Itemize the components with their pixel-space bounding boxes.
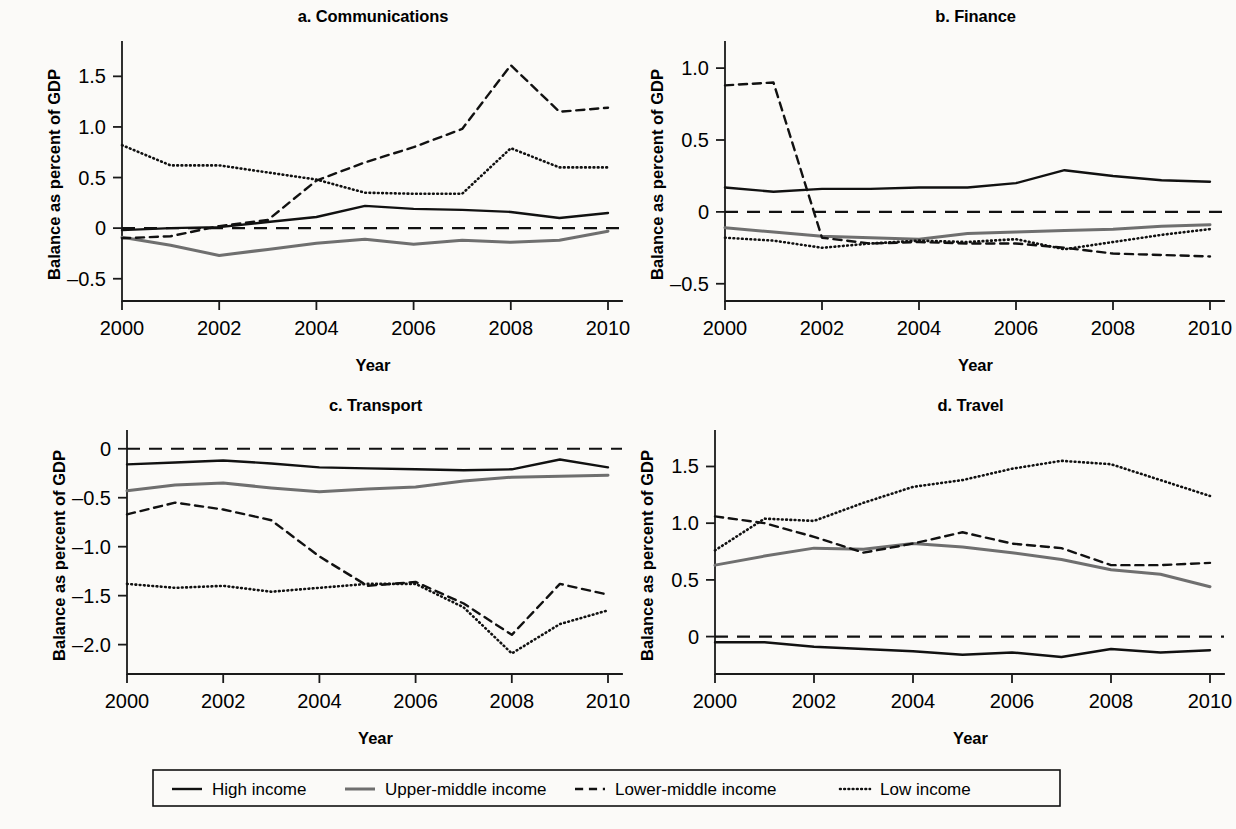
x-tick-label-c-1: 2002 (201, 690, 246, 712)
x-tick-label-d-4: 2008 (1089, 690, 1134, 712)
panel-c: c. Transport–2.0–1.5–1.0–0.5020002002200… (50, 396, 630, 747)
series-line-b-2 (725, 83, 1210, 257)
y-axis-title-b: Balance as percent of GDP (648, 69, 666, 280)
series-line-b-1 (725, 225, 1210, 239)
x-tick-label-b-4: 2008 (1091, 317, 1136, 339)
y-tick-label-c-4: 0 (100, 438, 111, 460)
series-line-c-0 (127, 460, 608, 471)
y-tick-label-d-2: 1.0 (671, 512, 699, 534)
x-axis-title-a: Year (356, 356, 391, 374)
y-axis-title-c: Balance as percent of GDP (50, 450, 68, 661)
y-tick-label-b-2: 0.5 (681, 129, 709, 151)
x-tick-label-a-0: 2000 (100, 317, 145, 339)
x-tick-label-b-3: 2006 (994, 317, 1039, 339)
y-tick-label-c-0: –2.0 (72, 634, 111, 656)
x-tick-label-c-3: 2006 (393, 690, 438, 712)
x-tick-label-d-5: 2010 (1188, 690, 1233, 712)
y-tick-label-d-3: 1.5 (671, 455, 699, 477)
y-axis-title-d: Balance as percent of GDP (638, 450, 656, 661)
x-tick-label-b-0: 2000 (703, 317, 748, 339)
series-line-c-1 (127, 475, 608, 492)
y-tick-label-b-1: 0 (698, 201, 709, 223)
x-axis-title-b: Year (958, 356, 993, 374)
y-tick-label-a-3: 1.0 (78, 116, 106, 138)
series-line-d-2 (715, 516, 1210, 565)
y-tick-label-a-2: 0.5 (78, 167, 106, 189)
x-tick-label-c-0: 2000 (105, 690, 150, 712)
series-line-d-0 (715, 642, 1210, 657)
y-tick-label-b-0: –0.5 (670, 273, 709, 295)
panel-b: b. Finance–0.500.51.02000200220042006200… (648, 7, 1232, 374)
legend-label-3: Low income (880, 780, 971, 799)
series-line-a-3 (122, 145, 608, 194)
x-tick-label-a-1: 2002 (197, 317, 242, 339)
x-tick-label-d-0: 2000 (693, 690, 738, 712)
y-tick-label-d-1: 0.5 (671, 569, 699, 591)
series-line-a-1 (122, 231, 608, 255)
x-tick-label-b-1: 2002 (800, 317, 845, 339)
figure-services-trade-balances: a. Communications–0.500.51.01.5200020022… (0, 0, 1236, 829)
x-tick-label-a-3: 2006 (391, 317, 436, 339)
y-tick-label-c-3: –0.5 (72, 487, 111, 509)
legend-label-0: High income (212, 780, 307, 799)
panel-a: a. Communications–0.500.51.01.5200020022… (45, 7, 630, 374)
series-line-d-3 (715, 461, 1210, 551)
series-line-c-2 (127, 503, 608, 635)
x-tick-label-d-3: 2006 (990, 690, 1035, 712)
y-tick-label-b-3: 1.0 (681, 57, 709, 79)
x-tick-label-a-4: 2008 (489, 317, 534, 339)
series-line-a-2 (122, 65, 608, 238)
panel-title-c: c. Transport (329, 396, 423, 414)
x-tick-label-c-2: 2004 (297, 690, 342, 712)
x-tick-label-c-5: 2010 (586, 690, 631, 712)
series-line-c-3 (127, 584, 608, 654)
y-tick-label-a-4: 1.5 (78, 65, 106, 87)
x-tick-label-b-2: 2004 (897, 317, 942, 339)
y-tick-label-c-2: –1.0 (72, 536, 111, 558)
x-axis-title-d: Year (953, 729, 988, 747)
y-tick-label-d-0: 0 (688, 626, 699, 648)
x-axis-title-c: Year (358, 729, 393, 747)
series-line-a-0 (122, 206, 608, 230)
series-line-b-0 (725, 170, 1210, 192)
x-tick-label-d-2: 2004 (891, 690, 936, 712)
x-tick-label-a-5: 2010 (586, 317, 631, 339)
y-axis-title-a: Balance as percent of GDP (45, 69, 63, 280)
legend: High incomeUpper-middle incomeLower-midd… (153, 770, 1060, 806)
figure-canvas: a. Communications–0.500.51.01.5200020022… (0, 0, 1236, 829)
y-tick-label-c-1: –1.5 (72, 585, 111, 607)
axis-spines-b (725, 42, 1224, 301)
legend-label-2: Lower-middle income (615, 780, 777, 799)
x-tick-label-a-2: 2004 (294, 317, 339, 339)
panel-title-a: a. Communications (298, 7, 449, 25)
panel-title-d: d. Travel (937, 396, 1003, 414)
panel-title-b: b. Finance (935, 7, 1016, 25)
x-tick-label-c-4: 2008 (490, 690, 535, 712)
panel-d: d. Travel00.51.01.5200020022004200620082… (638, 396, 1232, 747)
x-tick-label-b-5: 2010 (1188, 317, 1233, 339)
x-tick-label-d-1: 2002 (792, 690, 837, 712)
axis-spines-a (122, 42, 622, 301)
y-tick-label-a-0: –0.5 (67, 268, 106, 290)
y-tick-label-a-1: 0 (95, 217, 106, 239)
legend-label-1: Upper-middle income (385, 780, 547, 799)
